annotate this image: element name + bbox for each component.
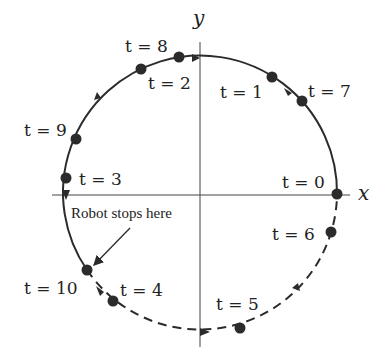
label-t3: t = 3 bbox=[79, 169, 122, 189]
label-t0: t = 0 bbox=[282, 172, 325, 192]
point-t10 bbox=[82, 265, 93, 276]
label-t2: t = 2 bbox=[148, 73, 191, 93]
label-t1: t = 1 bbox=[220, 82, 263, 102]
point-t0 bbox=[332, 189, 343, 200]
robot-circle-diagram: x y t = 0 t = 1 t = 2 t = 3 t = 4 t = 5 … bbox=[0, 0, 388, 360]
label-t7: t = 7 bbox=[308, 81, 351, 101]
annotation-arrow bbox=[94, 228, 130, 265]
point-t7 bbox=[297, 96, 308, 107]
point-t6 bbox=[326, 227, 337, 238]
annotation-text: Robot stops here bbox=[71, 205, 172, 221]
x-axis-label: x bbox=[358, 181, 369, 205]
point-t3 bbox=[61, 173, 72, 184]
label-t5: t = 5 bbox=[216, 294, 259, 314]
label-t4: t = 4 bbox=[120, 280, 163, 300]
point-t8 bbox=[174, 52, 185, 63]
label-t8: t = 8 bbox=[125, 36, 168, 56]
point-t9 bbox=[71, 134, 82, 145]
y-axis-label: y bbox=[192, 6, 205, 30]
point-t4 bbox=[108, 296, 119, 307]
label-t6: t = 6 bbox=[272, 224, 315, 244]
point-t2 bbox=[136, 64, 147, 75]
point-t1 bbox=[267, 72, 278, 83]
label-t9: t = 9 bbox=[24, 120, 67, 140]
point-t5 bbox=[235, 323, 246, 334]
label-t10: t = 10 bbox=[24, 278, 78, 298]
